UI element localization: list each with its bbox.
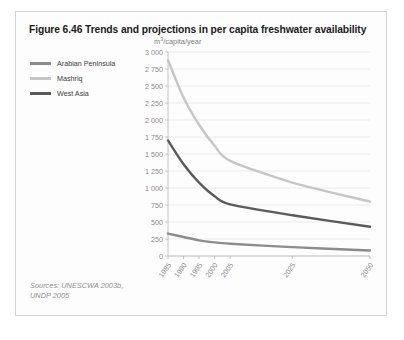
y-axis-tick-label: 500 (151, 218, 163, 227)
legend-item-mashriq: Mashriq (30, 72, 150, 85)
legend-item-arabian-peninsula: Arabian Peninsula (30, 57, 150, 70)
legend-item-west-asia: West Asia (30, 87, 150, 100)
figure-card: Figure 6.46 Trends and projections in pe… (15, 11, 387, 316)
sources-line-2: UNDP 2005 (30, 291, 123, 301)
series-line-west-asia (168, 140, 370, 226)
y-axis-tick-label: 0 (159, 252, 163, 261)
y-axis-tick-label: 2 500 (145, 82, 163, 91)
x-axis-tick-label: 2000 (203, 261, 220, 279)
series-line-arabian-peninsula (168, 234, 370, 251)
legend-label-west-asia: West Asia (57, 89, 89, 98)
y-axis-tick-label: 1 500 (145, 150, 163, 159)
figure-sources: Sources: UNESCWA 2003b, UNDP 2005 (30, 281, 123, 301)
sources-line-1: Sources: UNESCWA 2003b, (30, 281, 123, 291)
legend-swatch-west-asia (30, 92, 51, 95)
y-axis-tick-label: 1 750 (145, 133, 163, 142)
legend-swatch-mashriq (30, 77, 51, 80)
y-axis-tick-label: 2 250 (145, 99, 163, 108)
y-axis-tick-label: 1 000 (145, 184, 163, 193)
legend-label-arabian-peninsula: Arabian Peninsula (57, 59, 115, 68)
x-axis-tick-label: 1985 (157, 261, 174, 279)
y-axis-tick-label: 1 250 (145, 167, 163, 176)
y-axis-tick-label: 750 (151, 201, 163, 210)
y-axis-tick-label: 3 000 (145, 48, 163, 57)
y-axis-tick-label: 2 750 (145, 65, 163, 74)
y-axis-tick-label: 250 (151, 235, 163, 244)
legend-swatch-arabian-peninsula (30, 62, 51, 65)
x-axis-tick-label: 2025 (281, 261, 298, 279)
chart-svg: 02505007501 0001 2501 5001 7502 0002 250… (138, 36, 378, 311)
x-axis-tick-label: 2050 (359, 261, 376, 279)
figure-title: Figure 6.46 Trends and projections in pe… (29, 24, 374, 36)
chart-legend: Arabian Peninsula Mashriq West Asia (30, 57, 150, 102)
x-axis-tick-label: 1995 (188, 261, 205, 279)
x-axis-tick-label: 1990 (172, 261, 189, 279)
y-axis-tick-label: 2 000 (145, 116, 163, 125)
x-axis-tick-label: 2005 (219, 261, 236, 279)
legend-label-mashriq: Mashriq (57, 74, 83, 83)
chart-plot-area: m3/capita/year 02505007501 0001 2501 500… (138, 36, 378, 311)
